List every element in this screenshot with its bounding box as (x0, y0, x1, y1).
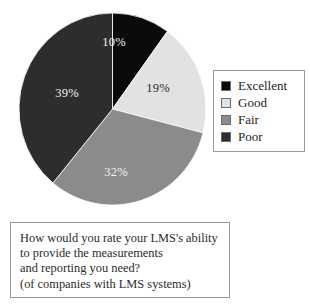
legend-item-good[interactable]: Good (221, 94, 299, 111)
caption-line: and reporting you need? (20, 261, 220, 276)
chart-caption-box: How would you rate your LMS's ability to… (10, 222, 230, 298)
pie-label-poor: 39% (55, 86, 79, 100)
chart-legend: Excellent Good Fair Poor (213, 70, 305, 152)
legend-item-label: Fair (238, 113, 259, 126)
pie-chart-figure: 10% 19% 32% 39% Excellent Good Fair Poor… (0, 0, 310, 306)
legend-item-fair[interactable]: Fair (221, 111, 299, 128)
caption-line: How would you rate your LMS's ability (20, 231, 220, 246)
legend-swatch-icon (221, 115, 231, 125)
caption-line: (of companies with LMS systems) (20, 277, 220, 292)
legend-item-excellent[interactable]: Excellent (221, 77, 299, 94)
pie-chart-svg: 10% 19% 32% 39% (19, 13, 206, 205)
pie-label-fair: 32% (104, 165, 128, 179)
legend-item-poor[interactable]: Poor (221, 128, 299, 145)
legend-item-label: Good (238, 96, 267, 109)
caption-line: to provide the measurements (20, 246, 220, 261)
pie-chart: 10% 19% 32% 39% (19, 13, 206, 205)
legend-swatch-icon (221, 98, 231, 108)
pie-label-excellent: 10% (102, 35, 126, 49)
pie-label-good: 19% (146, 81, 170, 95)
legend-item-label: Poor (238, 130, 263, 143)
legend-swatch-icon (221, 132, 231, 142)
legend-item-label: Excellent (238, 79, 287, 92)
legend-swatch-icon (221, 81, 231, 91)
